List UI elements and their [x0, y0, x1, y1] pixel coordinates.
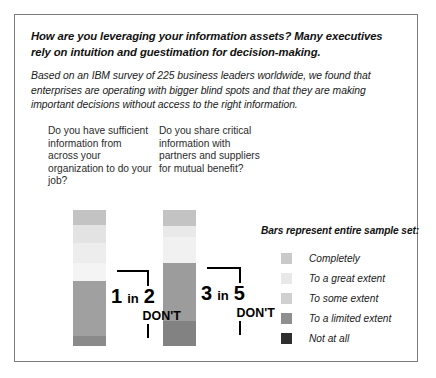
bar-segment — [73, 210, 106, 225]
bar-segment — [73, 243, 106, 263]
callout-ratio-1: 1 in 2 — [111, 286, 185, 309]
legend-item: Not at all — [281, 328, 431, 348]
question-label-2: Do you share critical information with p… — [159, 125, 267, 175]
bar-segment — [163, 226, 196, 237]
legend-swatch-icon — [281, 293, 292, 304]
legend-label: To a great extent — [309, 273, 385, 284]
bar-segment — [73, 225, 106, 243]
legend-label: To a limited extent — [309, 313, 391, 324]
legend-label: Completely — [309, 253, 360, 264]
callout-dont-1: DON'T — [111, 309, 185, 324]
legend-label: Not at all — [309, 333, 349, 344]
bar-segment — [73, 281, 106, 337]
callout-1: 1 in 2 DON'T — [111, 270, 185, 338]
bar-segment — [163, 237, 196, 263]
legend-item: Completely — [281, 248, 431, 268]
legend-list: CompletelyTo a great extentTo some exten… — [281, 248, 431, 348]
legend-item: To a great extent — [281, 268, 431, 288]
bar-segment — [73, 263, 106, 281]
bracket-tail-icon — [111, 324, 185, 338]
stacked-bar-1 — [73, 210, 106, 346]
headline: How are you leveraging your information … — [31, 29, 403, 60]
callout-ratio-2: 3 in 5 — [201, 283, 279, 306]
bracket-icon — [201, 267, 279, 283]
legend-swatch-icon — [281, 313, 292, 324]
question-label-1: Do you have sufficient information from … — [48, 125, 152, 188]
legend-item: To a limited extent — [281, 308, 431, 328]
callout-2: 3 in 5 DON'T — [201, 267, 279, 335]
legend-label: To some extent — [309, 293, 378, 304]
callout-dont-2: DON'T — [201, 306, 279, 321]
legend-item: To some extent — [281, 288, 431, 308]
legend-swatch-icon — [281, 253, 292, 264]
bar-segment — [73, 336, 106, 346]
legend-swatch-icon — [281, 273, 292, 284]
legend-title: Bars represent entire sample set: — [261, 225, 419, 236]
subheadline: Based on an IBM survey of 225 business l… — [31, 69, 405, 113]
bracket-icon — [111, 270, 185, 286]
bar-segment — [163, 210, 196, 226]
infographic-frame: How are you leveraging your information … — [14, 14, 418, 362]
bracket-tail-icon — [201, 321, 279, 335]
legend-swatch-icon — [281, 333, 292, 344]
